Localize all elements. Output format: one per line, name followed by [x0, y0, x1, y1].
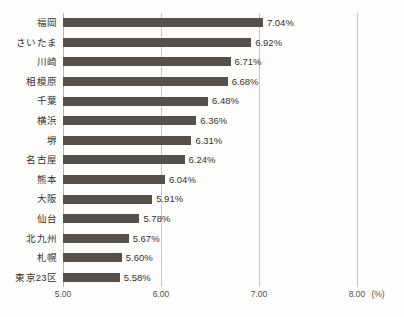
bar-value-label: 5.67% [133, 229, 160, 249]
bar [63, 116, 196, 125]
category-label: 相模原 [0, 72, 57, 92]
bar-row: 川崎6.71% [0, 52, 404, 72]
bar-value-label: 5.91% [156, 189, 183, 209]
horizontal-bar-chart: 福岡7.04%さいたま6.92%川崎6.71%相模原6.68%千葉6.48%横浜… [0, 0, 404, 317]
axis-unit-label: (%) [371, 289, 384, 299]
bar-row: 熊本6.04% [0, 170, 404, 190]
bar-value-label: 6.92% [255, 33, 282, 53]
bar-row: さいたま6.92% [0, 33, 404, 53]
bar-row: 大阪5.91% [0, 189, 404, 209]
category-label: 堺 [0, 131, 57, 151]
bar [63, 38, 251, 47]
bar-value-label: 6.24% [189, 150, 216, 170]
bar-value-label: 5.60% [126, 248, 153, 268]
bar [63, 136, 191, 145]
category-label: 東京23区 [0, 268, 57, 288]
bar-value-label: 5.78% [143, 209, 170, 229]
category-label: さいたま [0, 33, 57, 53]
bar [63, 214, 139, 223]
bar-row: 福岡7.04% [0, 13, 404, 33]
bar-value-label: 6.36% [200, 111, 227, 131]
x-axis-tick-label: 6.00 [153, 289, 170, 299]
category-label: 福岡 [0, 13, 57, 33]
bar-value-label: 6.31% [195, 131, 222, 151]
bar-row: 仙台5.78% [0, 209, 404, 229]
bar-value-label: 6.71% [235, 52, 262, 72]
bar [63, 18, 263, 27]
bar [63, 57, 231, 66]
category-label: 仙台 [0, 209, 57, 229]
bar-row: 札幌5.60% [0, 248, 404, 268]
bar [63, 195, 152, 204]
bar-row: 名古屋6.24% [0, 150, 404, 170]
category-label: 大阪 [0, 189, 57, 209]
category-label: 千葉 [0, 91, 57, 111]
category-label: 熊本 [0, 170, 57, 190]
category-label: 名古屋 [0, 150, 57, 170]
bar [63, 155, 185, 164]
category-label: 札幌 [0, 248, 57, 268]
bar [63, 253, 122, 262]
bar-value-label: 6.48% [212, 91, 239, 111]
bar [63, 97, 208, 106]
bar-value-label: 6.04% [169, 170, 196, 190]
bar [63, 273, 120, 282]
bar-value-label: 5.58% [124, 268, 151, 288]
category-label: 横浜 [0, 111, 57, 131]
x-axis-tick-label: 5.00 [55, 289, 72, 299]
bar-value-label: 6.68% [232, 72, 259, 92]
bar-row: 横浜6.36% [0, 111, 404, 131]
x-axis-tick-label: 8.00 [349, 289, 366, 299]
x-axis-tick-label: 7.00 [251, 289, 268, 299]
bar-row: 北九州5.67% [0, 229, 404, 249]
bar-value-label: 7.04% [267, 13, 294, 33]
bar-row: 相模原6.68% [0, 72, 404, 92]
bar [63, 175, 165, 184]
bar [63, 77, 228, 86]
bar-row: 千葉6.48% [0, 91, 404, 111]
bar-row: 東京23区5.58% [0, 268, 404, 288]
category-label: 北九州 [0, 229, 57, 249]
bar-row: 堺6.31% [0, 131, 404, 151]
category-label: 川崎 [0, 52, 57, 72]
bar [63, 234, 129, 243]
